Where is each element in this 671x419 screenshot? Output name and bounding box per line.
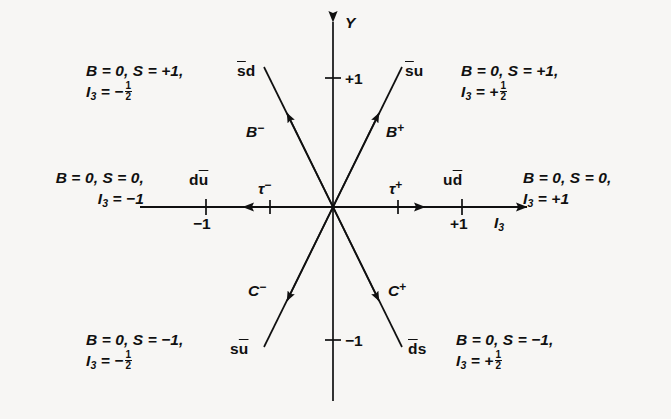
y-tick-label-plus1: +1 — [345, 68, 363, 89]
qn-tl-line2: I3 = −12 — [86, 81, 184, 103]
y-tick-label-minus1: −1 — [345, 330, 363, 351]
qn-bl-fraction: 12 — [125, 350, 133, 371]
quark-label-u-dbar: ud — [443, 169, 462, 190]
qn-tl-fraction: 12 — [125, 81, 133, 102]
y-axis-name: Y — [345, 12, 355, 33]
quark-u-glyph: u — [414, 62, 424, 79]
meson-b-minus-symbol: B — [246, 123, 257, 140]
quantum-numbers-top-right: B = 0, S = +1, I3 = +12 — [461, 60, 559, 104]
quantum-numbers-bottom-right: B = 0, S = −1, I3 = +12 — [456, 329, 554, 373]
x-tick-label-plus1: +1 — [450, 213, 468, 234]
meson-label-tau-plus: τ+ — [389, 177, 402, 199]
ray-b-minus — [264, 67, 333, 207]
meson-label-b-plus: B+ — [386, 120, 404, 142]
quark-label-sbar-u: su — [405, 60, 424, 81]
quantum-numbers-middle-right: B = 0, S = 0, I3 = +1 — [523, 167, 611, 211]
quark-label-d-ubar: du — [189, 169, 208, 190]
meson-label-c-plus: C+ — [388, 279, 406, 301]
x-axis-name-subscript: 3 — [498, 221, 504, 233]
meson-label-tau-minus: τ− — [258, 177, 271, 199]
qn-ml-line2: I3 = −1 — [26, 188, 144, 210]
qn-ml-line1: B = 0, S = 0, — [26, 167, 144, 188]
ray-c-plus-arrow — [333, 207, 379, 301]
quark-label-dbar-s: ds — [408, 338, 427, 359]
qn-tr-line1: B = 0, S = +1, — [461, 60, 559, 81]
quark-u-glyph2: u — [443, 171, 453, 188]
meson-b-plus-symbol: B — [386, 123, 397, 140]
quark-sbar-glyph2: s — [405, 62, 414, 79]
meson-c-plus-symbol: C — [388, 282, 399, 299]
ray-b-minus-arrow — [287, 113, 333, 207]
meson-tau-plus-charge: + — [395, 178, 402, 192]
qn-tl-line1: B = 0, S = +1, — [86, 60, 184, 81]
quark-sbar-glyph: s — [237, 62, 246, 79]
quark-dbar-glyph: d — [453, 171, 463, 188]
quantum-numbers-top-left: B = 0, S = +1, I3 = −12 — [86, 60, 184, 104]
meson-label-b-minus: B− — [246, 120, 264, 142]
quantum-numbers-bottom-left: B = 0, S = −1, I3 = −12 — [86, 329, 184, 373]
qn-tr-line2: I3 = +12 — [461, 81, 559, 103]
qn-mr-line2: I3 = +1 — [523, 188, 611, 210]
quark-s-glyph2: s — [418, 340, 427, 357]
x-tick-label-minus1: −1 — [193, 213, 211, 234]
qn-mr-line1: B = 0, S = 0, — [523, 167, 611, 188]
meson-c-minus-charge: − — [259, 280, 266, 294]
quark-label-sbar-d: sd — [237, 60, 256, 81]
figure-canvas: Y I3 +1 −1 −1 +1 sd su du ud su ds B− B+… — [0, 0, 671, 419]
qn-br-line1: B = 0, S = −1, — [456, 329, 554, 350]
meson-c-minus-symbol: C — [248, 282, 259, 299]
quark-ubar-glyph2: u — [239, 340, 249, 357]
quark-d-glyph: d — [246, 62, 256, 79]
meson-tau-minus-charge: − — [264, 178, 271, 192]
qn-br-fraction: 12 — [495, 350, 503, 371]
quark-label-s-ubar: su — [230, 338, 249, 359]
qn-bl-line1: B = 0, S = −1, — [86, 329, 184, 350]
qn-bl-line2: I3 = −12 — [86, 350, 184, 372]
ray-b-plus-arrow — [333, 113, 379, 207]
quantum-numbers-middle-left: B = 0, S = 0, I3 = −1 — [26, 167, 144, 211]
x-axis-name: I3 — [494, 212, 504, 234]
meson-b-minus-charge: − — [257, 121, 264, 135]
meson-b-plus-charge: + — [397, 121, 404, 135]
meson-c-plus-charge: + — [399, 280, 406, 294]
ray-c-minus-arrow — [287, 207, 333, 301]
y-axis-group — [325, 22, 341, 401]
quark-ubar-glyph: u — [199, 171, 209, 188]
qn-br-line2: I3 = +12 — [456, 350, 554, 372]
qn-tr-fraction: 12 — [500, 81, 508, 102]
quark-d-glyph2: d — [189, 171, 199, 188]
ray-c-plus — [333, 207, 402, 347]
quark-s-glyph: s — [230, 340, 239, 357]
meson-label-c-minus: C− — [248, 279, 266, 301]
quark-dbar-glyph2: d — [408, 340, 418, 357]
ray-c-minus — [264, 207, 333, 347]
